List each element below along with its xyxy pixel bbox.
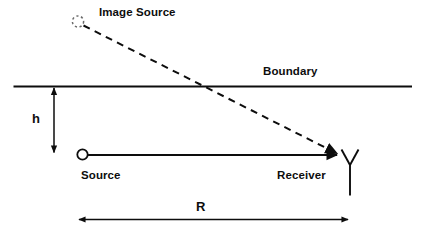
diagram-canvas xyxy=(0,0,425,235)
reflected-ray-line xyxy=(84,26,338,154)
boundary-label: Boundary xyxy=(263,66,317,78)
source-label: Source xyxy=(81,170,121,182)
image-source-label: Image Source xyxy=(99,7,176,19)
source-marker-icon xyxy=(77,149,87,159)
height-label: h xyxy=(32,112,40,125)
ray-geometry-diagram: Image Source Boundary h Source Receiver … xyxy=(0,0,425,235)
receiver-label: Receiver xyxy=(277,170,326,182)
receiver-antenna-icon xyxy=(342,150,359,196)
range-label: R xyxy=(196,200,206,213)
image-source-marker-icon xyxy=(72,16,83,27)
